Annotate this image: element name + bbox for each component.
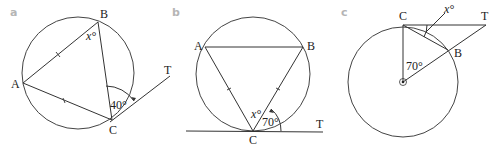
point-label-c: C	[399, 9, 407, 23]
point-label-t: T	[481, 9, 489, 23]
centre-dot	[402, 81, 405, 84]
angle-label-given: 40°	[110, 98, 127, 112]
point-label-b: B	[100, 7, 108, 21]
chord-ac	[23, 83, 112, 120]
point-label-b: B	[307, 39, 315, 53]
point-label-b: B	[454, 46, 462, 60]
angle-label-given: 70°	[406, 59, 423, 73]
diagram-b: b A B C T x° 70°	[172, 6, 324, 147]
angle-label-x: x°	[443, 2, 454, 16]
circle-a	[22, 17, 134, 129]
diagram-c: c C T B 70° x°	[341, 2, 489, 137]
part-label-c: c	[341, 6, 348, 19]
circle-theorem-figure: a B A C T x° 40° b A	[0, 0, 496, 150]
part-label-a: a	[10, 6, 17, 19]
point-label-a: A	[194, 39, 203, 53]
part-label-b: b	[172, 6, 180, 19]
line-ob-t	[403, 25, 486, 82]
tangent-ct	[186, 131, 323, 132]
angle-leader-line	[426, 13, 445, 32]
point-label-t: T	[164, 63, 172, 77]
point-label-c: C	[109, 123, 117, 137]
diagram-a: a B A C T x° 40°	[10, 6, 172, 137]
angle-label-x: x°	[250, 107, 261, 121]
point-label-c: C	[249, 133, 257, 147]
angle-label-given: 70°	[262, 115, 279, 129]
point-label-t: T	[316, 117, 324, 131]
chord-cb	[403, 25, 448, 50]
point-label-a: A	[11, 77, 20, 91]
angle-label-x: x°	[85, 29, 96, 43]
